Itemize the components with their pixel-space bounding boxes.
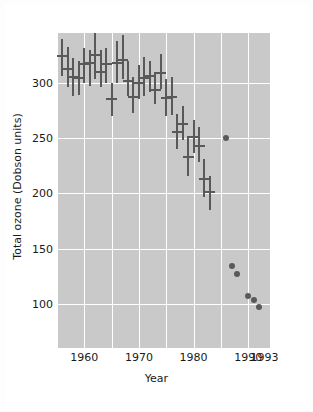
x-axis-tick-label: 1970 [125, 352, 153, 363]
y-axis-tick-label: 300 [32, 78, 53, 89]
x-axis-tick-label: 1960 [70, 352, 98, 363]
gridline-vertical [112, 33, 113, 348]
error-bar [100, 50, 102, 88]
error-bar [105, 48, 107, 82]
data-point-dot [223, 135, 229, 141]
gridline-horizontal [57, 193, 270, 194]
x-axis-tick-label: 1993 [251, 352, 279, 363]
error-bar-mean-marker [155, 72, 166, 74]
y-axis-tick-label: 100 [32, 299, 53, 310]
error-bar [83, 48, 85, 82]
error-bar-mean-marker [101, 63, 112, 65]
y-axis-tick-label: 250 [32, 133, 53, 144]
gridline-horizontal [57, 138, 270, 139]
gridline-vertical [221, 33, 222, 348]
gridline-horizontal [57, 304, 270, 305]
error-bar-mean-marker [204, 191, 215, 193]
error-bar-mean-marker [183, 156, 194, 158]
y-axis-title: Total ozone (Dobson units) [11, 87, 24, 287]
error-bar-mean-marker [177, 123, 188, 125]
error-bar [154, 72, 156, 104]
error-bar-mean-marker [150, 89, 161, 91]
plot-area [57, 33, 270, 348]
data-point-dot [256, 304, 262, 310]
error-bar-mean-marker [106, 98, 117, 100]
error-bar-mean-marker [166, 96, 177, 98]
data-point-dot [234, 271, 240, 277]
ozone-chart-figure: 100150200250300 Total ozone (Dobson unit… [0, 0, 313, 412]
plot-wrapper: 100150200250300 Total ozone (Dobson unit… [0, 0, 313, 412]
x-axis-title: Year [0, 372, 313, 385]
error-bar [122, 35, 124, 79]
x-axis-tick-label: 1980 [180, 352, 208, 363]
data-point-dot [251, 297, 257, 303]
gridline-horizontal [57, 249, 270, 250]
y-axis-tick-label: 200 [32, 188, 53, 199]
gridline-vertical [194, 33, 195, 348]
error-bar-mean-marker [194, 145, 205, 147]
y-axis-tick-labels: 100150200250300 [0, 0, 53, 412]
gridline-vertical [248, 33, 249, 348]
y-axis-tick-label: 150 [32, 244, 53, 255]
error-bar [67, 47, 69, 87]
gridline-vertical [57, 33, 58, 348]
error-bar [127, 61, 129, 96]
data-point-dot [229, 263, 235, 269]
